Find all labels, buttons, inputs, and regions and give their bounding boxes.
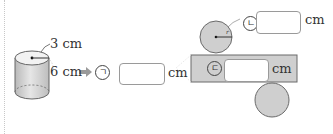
- net-top-circle: [200, 19, 240, 53]
- answer-a-input[interactable]: [119, 63, 165, 85]
- net-radius-marker: r: [226, 28, 229, 35]
- marker-c: ㄷ: [207, 61, 222, 76]
- cylinder-figure: [15, 44, 53, 99]
- radius-leader-line: [41, 44, 50, 52]
- answer-c-unit: cm: [272, 61, 292, 76]
- answer-c-input[interactable]: [224, 59, 269, 82]
- answer-b-unit: cm: [305, 12, 325, 27]
- radius-label: 3 cm: [50, 36, 82, 51]
- height-label: 6 cm: [50, 64, 82, 79]
- net-bottom-circle: [255, 83, 289, 117]
- answer-a-unit: cm: [168, 65, 188, 80]
- marker-a: ㄱ: [95, 65, 110, 80]
- answer-b-input[interactable]: [256, 11, 301, 34]
